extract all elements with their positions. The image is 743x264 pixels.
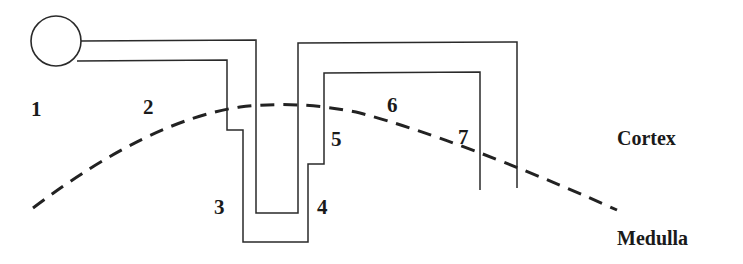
region-label-medulla: Medulla [617, 227, 688, 249]
segment-label-6: 6 [387, 93, 398, 117]
tubule-inner-wall [77, 60, 480, 242]
segment-label-3: 3 [214, 195, 225, 219]
region-label-cortex: Cortex [617, 127, 676, 149]
tubule-outer-wall [81, 40, 517, 213]
segment-label-4: 4 [317, 195, 328, 219]
segment-label-7: 7 [458, 125, 469, 149]
segment-label-5: 5 [331, 127, 342, 151]
nephron-diagram: 1 2 3 4 5 6 7 Cortex Medulla [0, 0, 743, 264]
segment-label-1: 1 [31, 97, 42, 121]
glomerulus-circle [31, 16, 81, 66]
segment-label-2: 2 [143, 95, 154, 119]
